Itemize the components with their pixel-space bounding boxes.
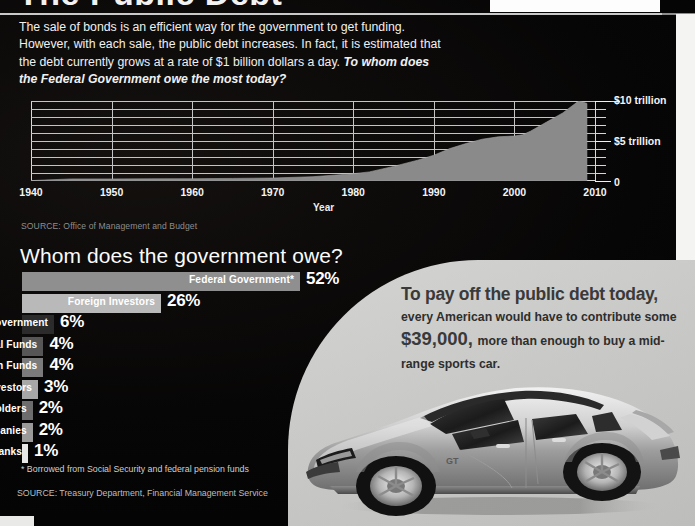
bar-row: Insurance Companies2% — [0, 422, 400, 444]
y-axis-label-top: $10 trillion — [614, 94, 667, 106]
bar-label: Commercial Banks — [0, 446, 22, 457]
x-axis-title: Year — [313, 202, 334, 213]
bar-label: Bond Holders — [0, 403, 27, 414]
bar-value: 4% — [49, 334, 73, 354]
title-divider — [0, 13, 681, 15]
bar-label: Pension Funds — [0, 360, 37, 371]
y-tick — [595, 117, 606, 118]
y-axis-label-zero: 0 — [614, 176, 620, 188]
bar-value: 3% — [44, 377, 68, 397]
infographic-page: The Public Debt The sale of bonds is an … — [0, 0, 695, 526]
page-title: The Public Debt — [18, 0, 282, 13]
y-tick — [595, 181, 611, 182]
callout-mid-1: every American would have to contribute … — [401, 310, 677, 324]
bar-value: 6% — [60, 312, 84, 332]
callout-lead: To pay off the public debt today, — [401, 284, 658, 304]
bar-label: Other Investors — [0, 382, 32, 393]
x-axis-tick-label: 1970 — [261, 186, 284, 198]
bar-label: Federal Government* — [189, 274, 294, 285]
intro-paragraph: The sale of bonds is an efficient way fo… — [19, 19, 449, 89]
bar-row: Commercial Banks1% — [0, 443, 400, 465]
y-tick — [595, 149, 606, 150]
x-axis-tick-label: 1990 — [422, 186, 445, 198]
bar-chart-source: SOURCE: Treasury Department, Financial M… — [17, 488, 268, 498]
bar-label: Insurance Companies — [0, 425, 27, 436]
y-tick — [595, 141, 611, 142]
bar-label: Foreign Investors — [68, 296, 155, 307]
x-axis-tick-label: 1940 — [19, 186, 42, 198]
page-corner — [0, 516, 34, 526]
y-axis-label-mid: $5 trillion — [614, 135, 661, 147]
x-axis-tick-label: 2010 — [583, 186, 606, 198]
y-tick — [595, 165, 606, 166]
x-axis-tick-label: 1980 — [342, 186, 365, 198]
x-axis-tick-label: 1960 — [180, 186, 203, 198]
bar-label: State and Local Government — [0, 317, 48, 328]
bar-row: Pension Funds4% — [0, 357, 400, 379]
car-gt-badge: GT — [446, 456, 459, 466]
x-axis-tick-label: 1950 — [100, 186, 123, 198]
bar — [22, 444, 28, 463]
bar-row: Federal Government*52% — [0, 271, 400, 293]
x-axis-tick-label: 2000 — [503, 186, 526, 198]
title-white-block — [490, 0, 660, 12]
callout-amount: $39,000, — [401, 328, 473, 349]
callout-text: To pay off the public debt today, every … — [401, 284, 689, 375]
y-tick — [595, 173, 606, 174]
bar-row: Foreign Investors26% — [0, 293, 400, 315]
bar-chart-footnote: * Borrowed from Social Security and fede… — [21, 464, 249, 474]
y-tick — [595, 101, 611, 102]
bar-row: State and Local Government6% — [0, 314, 400, 336]
y-tick — [595, 133, 606, 134]
bar-value: 52% — [306, 269, 339, 289]
bar-value: 2% — [39, 398, 63, 418]
chart-area-series — [31, 101, 595, 181]
bar-value: 26% — [167, 291, 200, 311]
owe-section-heading: Whom does the government owe? — [20, 244, 343, 268]
owe-bar-chart: Federal Government*52%Foreign Investors2… — [0, 271, 400, 465]
bar-row: Mutual Funds4% — [0, 336, 400, 358]
bar-value: 4% — [49, 355, 73, 375]
bar-value: 1% — [34, 441, 58, 461]
chart-source-omb: SOURCE: Office of Management and Budget — [21, 221, 197, 231]
y-tick — [595, 157, 606, 158]
bar-label: Mutual Funds — [0, 339, 37, 350]
y-tick — [595, 125, 606, 126]
bar-row: Bond Holders2% — [0, 400, 400, 422]
y-tick — [595, 109, 606, 110]
bar-value: 2% — [39, 420, 63, 440]
chart-plot-area — [31, 101, 595, 181]
bar-row: Other Investors3% — [0, 379, 400, 401]
debt-over-time-chart: $10 trillion $5 trillion 0 1940195019601… — [0, 92, 695, 214]
